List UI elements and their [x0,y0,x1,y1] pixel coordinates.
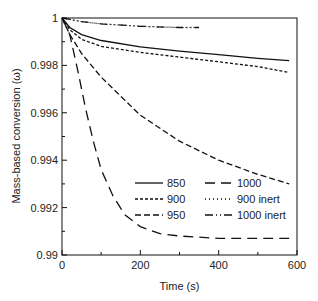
legend-label: 1000 inert [237,209,286,221]
x-axis-label: Time (s) [160,280,200,292]
series-line-900-inert [62,18,199,28]
x-tick-label: 200 [131,259,149,271]
plot-lines [62,18,289,238]
legend-label: 950 [167,209,185,221]
series-line-1000-inert [62,18,199,28]
legend-label: 900 inert [237,193,280,205]
chart: 02004006000.990.9920.9940.9960.9981 Time… [0,0,318,301]
legend-label: 900 [167,193,185,205]
series-line-900 [62,18,289,73]
axis-ticks: 02004006000.990.9920.9940.9960.9981 [30,12,306,271]
x-tick-label: 400 [209,259,227,271]
x-tick-label: 0 [59,259,65,271]
legend-label: 1000 [237,177,261,189]
series-line-850 [62,18,289,61]
legend: 8501000900900 inert9501000 inert [135,177,286,221]
y-tick-label: 0.994 [30,154,58,166]
series-line-950 [62,18,289,184]
y-tick-label: 0.992 [30,202,58,214]
y-tick-label: 0.998 [30,59,58,71]
y-tick-label: 0.996 [30,107,58,119]
x-tick-label: 600 [288,259,306,271]
y-tick-label: 0.99 [37,249,58,261]
y-tick-label: 1 [52,12,58,24]
y-axis-label: Mass-based conversion (ω) [10,68,22,203]
legend-label: 850 [167,177,185,189]
